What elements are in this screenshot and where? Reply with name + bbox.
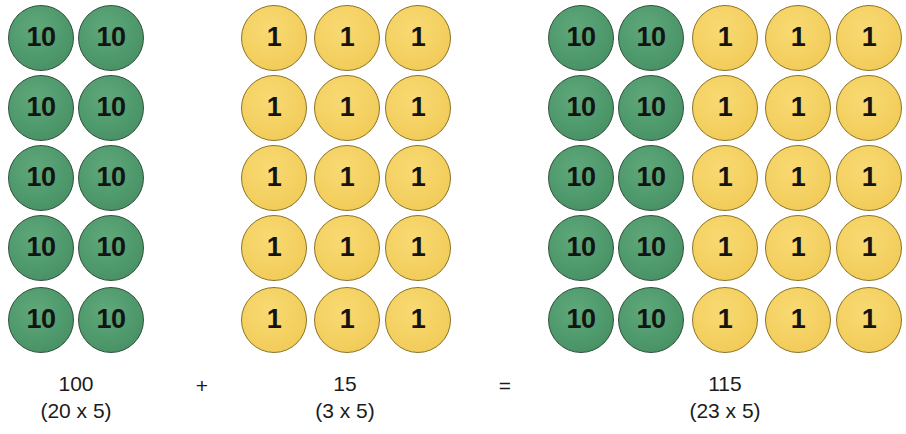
- counter-one: 1: [241, 287, 307, 353]
- group-expression-sum: (23 x 5): [605, 397, 845, 424]
- counter-one: 1: [241, 5, 307, 71]
- counter-value: 10: [566, 94, 595, 121]
- counter-value: 10: [566, 234, 595, 261]
- counter-value: 1: [862, 94, 877, 121]
- counter-value: 1: [718, 94, 733, 121]
- counter-one: 1: [836, 287, 902, 353]
- counter-value: 1: [411, 164, 426, 191]
- counter-ten: 10: [8, 287, 74, 353]
- counter-value: 10: [26, 24, 55, 51]
- counter-value: 10: [96, 24, 125, 51]
- plus-symbol: +: [162, 373, 242, 399]
- counter-ten: 10: [8, 145, 74, 211]
- place-value-diagram: 10101010101010101010100(20 x 5)111111111…: [0, 0, 906, 434]
- group-total-second-addend: 15: [225, 371, 465, 397]
- group-label-second-addend: 15(3 x 5): [225, 371, 465, 424]
- counter-value: 10: [96, 164, 125, 191]
- counter-value: 1: [791, 24, 806, 51]
- counter-value: 1: [791, 306, 806, 333]
- counter-value: 1: [862, 24, 877, 51]
- counter-one: 1: [314, 5, 380, 71]
- counter-value: 10: [636, 94, 665, 121]
- counter-value: 1: [340, 234, 355, 261]
- counter-value: 1: [411, 94, 426, 121]
- counter-value: 1: [411, 306, 426, 333]
- counter-ten: 10: [548, 5, 614, 71]
- counter-value: 1: [718, 234, 733, 261]
- counter-value: 1: [340, 164, 355, 191]
- group-expression-second-addend: (3 x 5): [225, 397, 465, 424]
- counter-one: 1: [314, 145, 380, 211]
- counter-value: 10: [26, 164, 55, 191]
- counter-value: 1: [791, 94, 806, 121]
- counter-value: 1: [718, 164, 733, 191]
- counter-value: 1: [267, 234, 282, 261]
- counter-one: 1: [836, 215, 902, 281]
- counter-one: 1: [765, 145, 831, 211]
- counter-value: 10: [566, 306, 595, 333]
- counter-one: 1: [385, 215, 451, 281]
- counter-ten: 10: [618, 215, 684, 281]
- counter-value: 10: [636, 164, 665, 191]
- counter-value: 1: [267, 164, 282, 191]
- counter-value: 1: [340, 24, 355, 51]
- counter-value: 1: [411, 24, 426, 51]
- group-expression-first-addend: (20 x 5): [0, 397, 196, 424]
- counter-value: 1: [267, 94, 282, 121]
- counter-value: 10: [566, 164, 595, 191]
- counter-value: 10: [26, 94, 55, 121]
- counter-ten: 10: [618, 145, 684, 211]
- counter-value: 10: [636, 24, 665, 51]
- counter-ten: 10: [548, 215, 614, 281]
- counter-ten: 10: [548, 287, 614, 353]
- counter-value: 10: [96, 94, 125, 121]
- counter-value: 10: [26, 234, 55, 261]
- counter-value: 10: [96, 306, 125, 333]
- counter-one: 1: [314, 75, 380, 141]
- counter-one: 1: [836, 5, 902, 71]
- counter-one: 1: [692, 75, 758, 141]
- counter-one: 1: [765, 215, 831, 281]
- counter-one: 1: [385, 75, 451, 141]
- counter-ten: 10: [78, 287, 144, 353]
- counter-value: 10: [566, 24, 595, 51]
- counter-value: 10: [636, 306, 665, 333]
- counter-one: 1: [765, 287, 831, 353]
- counter-value: 1: [791, 164, 806, 191]
- counter-value: 1: [267, 306, 282, 333]
- counter-ten: 10: [618, 5, 684, 71]
- counter-value: 10: [636, 234, 665, 261]
- counter-value: 10: [96, 234, 125, 261]
- counter-ten: 10: [78, 75, 144, 141]
- counter-one: 1: [314, 287, 380, 353]
- counter-ten: 10: [78, 215, 144, 281]
- counter-ten: 10: [78, 5, 144, 71]
- group-label-sum: 115(23 x 5): [605, 371, 845, 424]
- counter-value: 1: [718, 306, 733, 333]
- counter-one: 1: [765, 75, 831, 141]
- counter-ten: 10: [78, 145, 144, 211]
- counter-ten: 10: [8, 75, 74, 141]
- counter-value: 1: [862, 164, 877, 191]
- counter-one: 1: [692, 215, 758, 281]
- counter-value: 1: [718, 24, 733, 51]
- counter-value: 1: [862, 234, 877, 261]
- counter-one: 1: [385, 145, 451, 211]
- counter-value: 1: [340, 94, 355, 121]
- group-total-sum: 115: [605, 371, 845, 397]
- counter-value: 1: [791, 234, 806, 261]
- counter-one: 1: [241, 145, 307, 211]
- counter-value: 1: [862, 306, 877, 333]
- counter-value: 1: [340, 306, 355, 333]
- counter-value: 10: [26, 306, 55, 333]
- counter-one: 1: [692, 145, 758, 211]
- counter-one: 1: [385, 287, 451, 353]
- counter-one: 1: [692, 5, 758, 71]
- counter-one: 1: [241, 75, 307, 141]
- counter-ten: 10: [618, 287, 684, 353]
- counter-one: 1: [836, 145, 902, 211]
- counter-one: 1: [692, 287, 758, 353]
- counter-ten: 10: [618, 75, 684, 141]
- counter-ten: 10: [8, 5, 74, 71]
- counter-one: 1: [385, 5, 451, 71]
